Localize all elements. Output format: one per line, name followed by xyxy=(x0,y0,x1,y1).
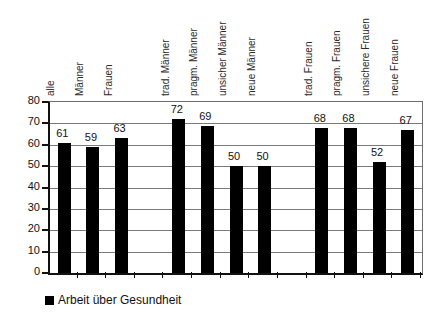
x-tick-mark-3 xyxy=(162,272,163,278)
bar xyxy=(201,126,214,273)
x-tick-mark-6 xyxy=(248,272,249,278)
x-tick-mark-0 xyxy=(77,272,78,278)
x-tick-mark-12 xyxy=(420,272,421,278)
x-axis-label-wrap: pragm. Männer xyxy=(199,0,211,96)
bar-value-label: 50 xyxy=(219,151,249,162)
y-tick-label-20: 20 xyxy=(14,223,40,234)
y-tick-label-30: 30 xyxy=(14,202,40,213)
x-axis-label-wrap: unsicher Männer xyxy=(228,0,240,96)
y-tick-label-10: 10 xyxy=(14,245,40,256)
x-axis-label-wrap: pragm. Frauen xyxy=(342,0,354,96)
x-axis-label-wrap: trad. Frauen xyxy=(314,0,326,96)
y-tick-label-0: 0 xyxy=(14,266,40,277)
bar-value-label: 59 xyxy=(76,132,106,143)
bar-value-label: 67 xyxy=(391,115,421,126)
bar xyxy=(373,162,386,273)
bar-value-label: 68 xyxy=(333,113,363,124)
x-axis-label-wrap: trad. Männer xyxy=(171,0,183,96)
x-tick-mark-2 xyxy=(134,272,135,278)
bar-value-label: 52 xyxy=(362,147,392,158)
x-axis-label: trad. Männer xyxy=(161,39,171,96)
bar-value-label: 50 xyxy=(248,151,278,162)
bar xyxy=(230,166,243,273)
x-axis-label-wrap: Männer xyxy=(85,0,97,96)
x-axis-label: pragm. Frauen xyxy=(332,30,342,96)
x-tick-mark-11 xyxy=(391,272,392,278)
bar xyxy=(58,143,71,273)
x-axis-label: unsichere Frauen xyxy=(361,18,371,96)
x-axis-label: unsicher Männer xyxy=(218,22,228,96)
x-axis-label-wrap: neue Frauen xyxy=(400,0,412,96)
bar-value-label: 61 xyxy=(47,128,77,139)
bar-value-label: 63 xyxy=(105,123,135,134)
x-axis-label: pragm. Männer xyxy=(189,28,199,96)
x-axis-label: trad. Frauen xyxy=(304,42,314,96)
bar xyxy=(86,147,99,273)
bar xyxy=(115,138,128,273)
x-tick-mark-4 xyxy=(191,272,192,278)
x-tick-mark-9 xyxy=(334,272,335,278)
x-tick-mark-7 xyxy=(277,272,278,278)
x-axis-label: Männer xyxy=(75,62,85,96)
bar-value-label: 72 xyxy=(162,104,192,115)
bar xyxy=(344,128,357,273)
legend: Arbeit über Gesundheit xyxy=(45,294,181,306)
bar xyxy=(258,166,271,273)
y-tick-label-70: 70 xyxy=(14,116,40,127)
x-axis-label-wrap: Frauen xyxy=(114,0,126,96)
x-axis-label: neue Männer xyxy=(247,37,257,96)
bar xyxy=(315,128,328,273)
y-tick-label-80: 80 xyxy=(14,95,40,106)
bar xyxy=(172,119,185,273)
legend-swatch-arbeit-ueber-gesundheit xyxy=(45,296,54,305)
x-axis-label-wrap: unsichere Frauen xyxy=(371,0,383,96)
y-tick-label-60: 60 xyxy=(14,138,40,149)
bar-value-label: 69 xyxy=(190,111,220,122)
x-axis-label-wrap: neue Männer xyxy=(257,0,269,96)
bar-chart: 01020304050607080 alleMännerFrauentrad. … xyxy=(0,0,443,321)
x-axis-label: alle xyxy=(46,80,56,96)
bar xyxy=(401,130,414,273)
y-tick-label-50: 50 xyxy=(14,159,40,170)
y-tick-label-40: 40 xyxy=(14,181,40,192)
gridline-60 xyxy=(50,145,422,146)
x-tick-mark-1 xyxy=(105,272,106,278)
legend-label: Arbeit über Gesundheit xyxy=(58,294,181,306)
x-axis-label: neue Frauen xyxy=(390,39,400,96)
x-tick-mark-8 xyxy=(306,272,307,278)
x-tick-mark-10 xyxy=(363,272,364,278)
x-axis-label: Frauen xyxy=(104,64,114,96)
bar-value-label: 68 xyxy=(305,113,335,124)
x-tick-mark-5 xyxy=(220,272,221,278)
x-axis-label-wrap: alle xyxy=(56,0,68,96)
